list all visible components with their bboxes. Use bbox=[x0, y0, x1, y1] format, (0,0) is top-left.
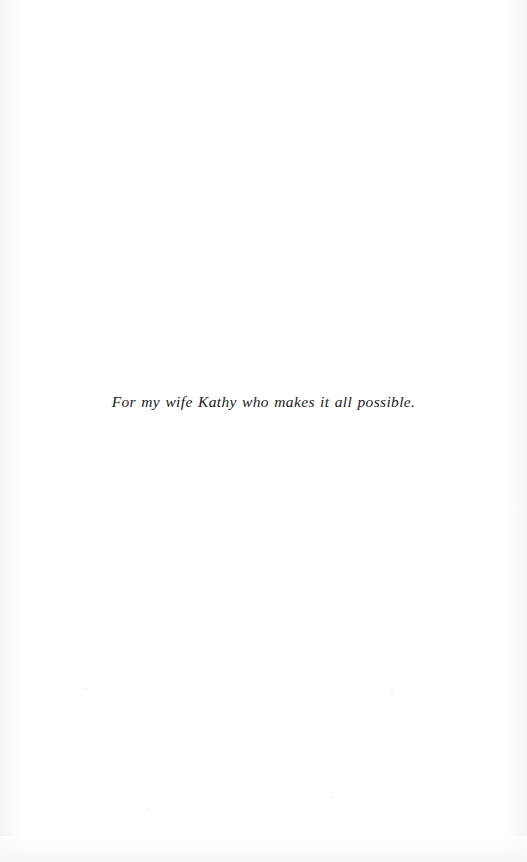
scan-artifact-speck bbox=[330, 795, 334, 798]
dedication-block: For my wife Kathy who makes it all possi… bbox=[0, 392, 527, 412]
scan-artifact-speck bbox=[83, 688, 88, 691]
dedication-page: For my wife Kathy who makes it all possi… bbox=[0, 0, 527, 862]
scan-artifact-speck bbox=[146, 808, 152, 811]
scan-artifact-right-edge bbox=[501, 0, 527, 862]
scan-artifact-left-edge bbox=[0, 0, 26, 862]
scan-artifact-speck bbox=[390, 692, 394, 695]
dedication-text: For my wife Kathy who makes it all possi… bbox=[112, 392, 416, 412]
scan-artifact-bottom-smudge bbox=[0, 836, 527, 862]
